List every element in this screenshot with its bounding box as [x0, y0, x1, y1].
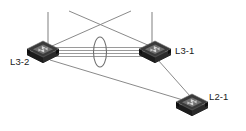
- topology-canvas: L3-2 L3-1 L2-1: [0, 0, 246, 131]
- node-label-l2-1: L2-1: [209, 91, 228, 102]
- node-l2-1[interactable]: [176, 94, 208, 116]
- bundle-highlight-ellipse: [94, 37, 107, 67]
- link-aggregation-bundle: [55, 48, 145, 57]
- uplink-stub-group: [48, 12, 152, 44]
- cross-link-group: [52, 11, 150, 46]
- cross-link-l3-2-to-right: [52, 11, 131, 46]
- downlink-group: [50, 60, 190, 100]
- node-l3-2[interactable]: [27, 41, 59, 63]
- network-topology-diagram: L3-2 L3-1 L2-1: [0, 0, 246, 131]
- cross-link-l3-1-to-left: [69, 11, 150, 46]
- downlink-l3-1-to-l2-1: [158, 60, 190, 96]
- node-label-l3-2: L3-2: [10, 56, 29, 67]
- node-label-l3-1: L3-1: [175, 45, 194, 56]
- node-l3-1[interactable]: [139, 41, 171, 63]
